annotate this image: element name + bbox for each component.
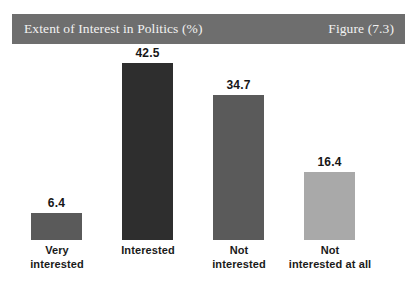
bar-value-label-4: 16.4 (304, 156, 355, 168)
bar-value-label-2: 42.5 (122, 47, 173, 59)
category-label-line: Not (270, 243, 390, 257)
bar-group: 42.5 (122, 48, 173, 240)
figure-number-label: Figure (7.3) (328, 22, 394, 36)
bar-1 (31, 213, 82, 240)
bar-group: 34.7 (213, 48, 264, 240)
chart-header-bar: Extent of Interest in Politics (%) Figur… (12, 14, 405, 44)
bar-4 (304, 172, 355, 240)
bar-value-label-3: 34.7 (213, 79, 264, 91)
plot-area: 6.442.534.716.4 (12, 48, 405, 240)
page-title: Extent of Interest in Politics (%) (24, 22, 203, 36)
figure-bar-chart: Extent of Interest in Politics (%) Figur… (0, 0, 417, 293)
bar-value-label-1: 6.4 (31, 197, 82, 209)
bar-group: 6.4 (31, 48, 82, 240)
bar-group: 16.4 (304, 48, 355, 240)
bar-2 (122, 63, 173, 240)
x-axis-category-labels: VeryinterestedInterestedNotinterestedNot… (12, 243, 405, 287)
category-label-line: interested at all (270, 257, 390, 271)
bar-3 (213, 95, 264, 240)
category-label-line: interested (0, 257, 117, 271)
category-label-4: Notinterested at all (270, 243, 390, 271)
